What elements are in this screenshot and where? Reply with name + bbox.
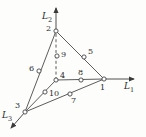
axis-label-L3-sub: 3 xyxy=(8,115,12,123)
node-label-4: 4 xyxy=(60,72,65,80)
node-marker-3[interactable] xyxy=(23,110,27,114)
axis-label-L3: L3 xyxy=(2,111,12,122)
triangular-element-figure: 1 2 3 4 5 6 7 8 9 10 L1 L2 L3 xyxy=(0,0,146,137)
node-marker-5[interactable] xyxy=(82,55,86,59)
node-label-6: 6 xyxy=(29,65,34,73)
node-label-9: 9 xyxy=(61,51,66,59)
node-label-10: 10 xyxy=(49,90,59,98)
node-label-8: 8 xyxy=(78,69,83,77)
node-marker-6[interactable] xyxy=(37,69,41,73)
axis-label-L1: L1 xyxy=(124,82,134,93)
node-marker-8[interactable] xyxy=(79,78,83,82)
axis-label-L1-sub: 1 xyxy=(130,86,134,94)
node-label-2: 2 xyxy=(46,25,51,33)
node-label-1: 1 xyxy=(100,84,105,92)
node-marker-10[interactable] xyxy=(43,90,47,94)
node-label-3: 3 xyxy=(15,102,20,110)
node-marker-2[interactable] xyxy=(54,29,58,33)
figure-canvas xyxy=(0,0,146,137)
axis-label-L2-sub: 2 xyxy=(48,16,52,24)
node-marker-4[interactable] xyxy=(54,78,58,82)
edge-3-1 xyxy=(25,79,104,112)
node-marker-9[interactable] xyxy=(55,54,59,58)
axis-label-L2: L2 xyxy=(42,12,52,23)
node-label-7: 7 xyxy=(71,97,76,105)
node-marker-1[interactable] xyxy=(102,77,106,81)
node-label-5: 5 xyxy=(88,48,93,56)
axis-L3-line xyxy=(11,112,25,128)
